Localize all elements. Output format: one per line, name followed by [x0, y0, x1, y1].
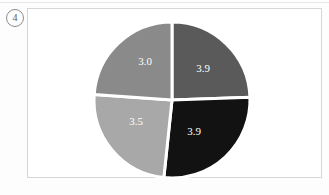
pie-slice-label: 3.0 — [138, 55, 152, 67]
pie-slice-label: 3.9 — [196, 62, 210, 74]
pie-slice[interactable] — [172, 22, 250, 100]
pie-slice-label: 3.9 — [187, 125, 201, 137]
figure-root: 4 3.93.93.53.0 — [0, 0, 329, 195]
pie-slice[interactable] — [94, 95, 172, 178]
pie-slice-group — [94, 22, 250, 178]
pie-chart: 3.93.93.53.0 — [0, 0, 329, 195]
pie-slice[interactable] — [164, 97, 250, 178]
pie-slice[interactable] — [94, 22, 172, 100]
pie-slice-label: 3.5 — [129, 115, 143, 127]
